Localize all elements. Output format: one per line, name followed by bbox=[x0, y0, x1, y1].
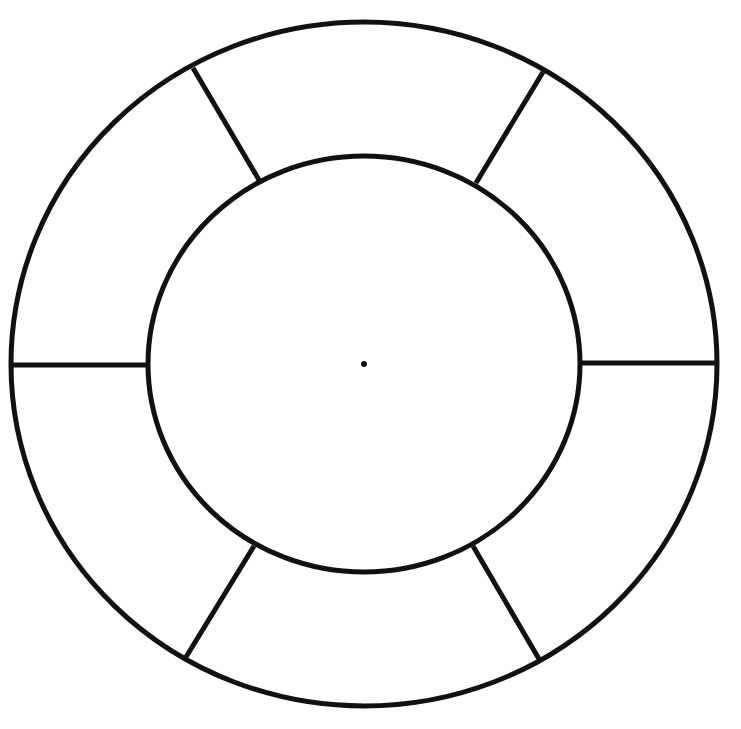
segment-divider-5 bbox=[186, 546, 254, 657]
segmented-ring-diagram bbox=[0, 0, 741, 729]
center-dot bbox=[361, 361, 367, 367]
segment-divider-4 bbox=[473, 546, 539, 659]
segment-divider-1 bbox=[193, 68, 259, 180]
segment-divider-2 bbox=[476, 72, 543, 183]
